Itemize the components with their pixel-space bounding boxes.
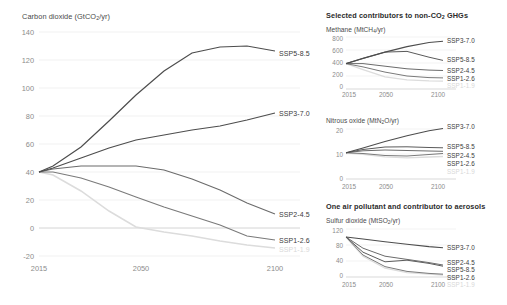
so2-series-label-ssp3-7p0: SSP3-7.0 [447,245,475,251]
co2-panel: Carbon dioxide (GtCO2/yr) 140 120 100 80… [0,0,318,305]
co2-plot [0,0,318,305]
methane-series-label-ssp2-4p5: SSP2-4.5 [447,68,475,74]
n2o-series-label-ssp1-1p9: SSP1-1.9 [447,169,475,175]
methane-series-label-ssp3-7p0: SSP3-7.0 [447,38,475,44]
n2o-series-label-ssp3-7p0: SSP3-7.0 [447,124,475,130]
so2-plot [326,198,507,305]
methane-series-label-ssp5-8p5: SSP5-8.5 [447,57,475,63]
n2o-series-label-ssp1-2p6: SSP1-2.6 [447,161,475,167]
co2-line-ssp1-2p6 [39,172,275,240]
n2o-series-label-ssp2-4p5: SSP2-4.5 [447,153,475,159]
methane-line-ssp2-4p5 [346,64,443,71]
so2-line-ssp5-8p5 [346,237,443,266]
aerosol-section: One air pollutant and contributor to aer… [326,198,507,305]
so2-series-label-ssp1-1p9: SSP1-1.9 [447,282,475,288]
co2-line-ssp1-1p9 [39,172,275,248]
co2-series-label-ssp1-1p9: SSP1-1.9 [279,246,310,253]
n2o-line-ssp3-7p0 [346,129,443,153]
methane-series-label-ssp1-1p9: SSP1-1.9 [447,83,475,89]
co2-line-ssp2-4p5 [39,166,275,214]
co2-series-label-ssp5-8p5: SSP5-8.5 [279,50,310,57]
co2-series-label-ssp1-2p6: SSP1-2.6 [279,237,310,244]
methane-line-ssp3-7p0 [346,41,443,63]
methane-plot [326,0,507,100]
co2-line-ssp3-7p0 [39,113,275,172]
co2-series-label-ssp3-7p0: SSP3-7.0 [279,110,310,117]
methane-line-ssp5-8p5 [346,51,443,63]
n2o-plot [326,110,507,190]
n2o-series-label-ssp5-8p5: SSP5-8.5 [447,144,475,150]
co2-line-ssp5-8p5 [39,46,275,172]
ghg-section: Selected contributors to non-CO2 GHGs Me… [326,0,507,190]
so2-series-label-ssp5-8p5: SSP5-8.5 [447,267,475,273]
co2-series-label-ssp2-4p5: SSP2-4.5 [279,211,310,218]
